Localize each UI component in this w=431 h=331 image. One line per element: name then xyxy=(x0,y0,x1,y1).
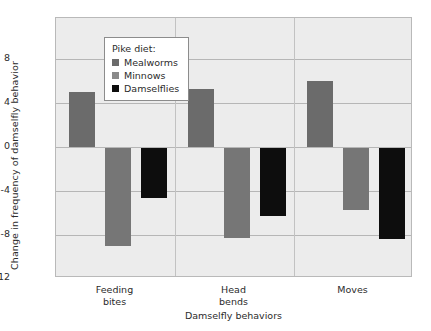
legend-item-minnows: Minnows xyxy=(112,70,179,81)
x-tick-label-head-bends: Head bends xyxy=(174,284,293,308)
x-tick-line-1: Head xyxy=(174,284,293,296)
y-tick-label-neg4: -4 xyxy=(0,185,10,195)
bar-chart: Change in frequency of damselfly behavio… xyxy=(0,0,431,331)
bar-feeding-bites-mealworms xyxy=(69,92,95,147)
legend-label-mealworms: Mealworms xyxy=(124,57,178,68)
legend: Pike diet: Mealworms Minnows Damselflies xyxy=(104,37,189,101)
legend-swatch-mealworms xyxy=(112,59,119,66)
x-tick-label-moves: Moves xyxy=(293,284,412,296)
x-tick-line-2: bites xyxy=(55,296,174,308)
legend-swatch-minnows xyxy=(112,72,119,79)
x-tick-line-1: Feeding xyxy=(55,284,174,296)
x-tick-line-1: Moves xyxy=(293,284,412,296)
legend-label-minnows: Minnows xyxy=(124,70,165,81)
bar-head-bends-mealworms xyxy=(188,89,214,147)
x-tick-label-feeding-bites: Feeding bites xyxy=(55,284,174,308)
bar-moves-minnows xyxy=(343,148,369,210)
bar-feeding-bites-minnows xyxy=(105,148,131,246)
x-tick-line-2: bends xyxy=(174,296,293,308)
x-axis-title: Damselfly behaviors xyxy=(55,310,412,321)
bar-moves-mealworms xyxy=(307,81,333,147)
bar-head-bends-minnows xyxy=(224,148,250,238)
y-tick-label-neg8: -8 xyxy=(0,229,10,239)
y-axis-title-text: Change in frequency of damselfly behavio… xyxy=(9,61,20,270)
group-separator-2 xyxy=(294,18,295,276)
bar-moves-damselflies xyxy=(379,148,405,239)
gridline-4 xyxy=(56,103,411,104)
y-tick-label-neg12: -12 xyxy=(0,272,10,282)
y-tick-label-0: 0 xyxy=(0,141,10,151)
bar-feeding-bites-damselflies xyxy=(141,148,167,198)
y-tick-label-8: 8 xyxy=(0,53,10,63)
legend-label-damselflies: Damselflies xyxy=(124,83,179,94)
legend-title: Pike diet: xyxy=(112,43,179,54)
legend-item-damselflies: Damselflies xyxy=(112,83,179,94)
bar-head-bends-damselflies xyxy=(260,148,286,216)
y-axis-title: Change in frequency of damselfly behavio… xyxy=(22,0,44,331)
y-tick-label-4: 4 xyxy=(0,97,10,107)
legend-item-mealworms: Mealworms xyxy=(112,57,179,68)
legend-swatch-damselflies xyxy=(112,85,119,92)
